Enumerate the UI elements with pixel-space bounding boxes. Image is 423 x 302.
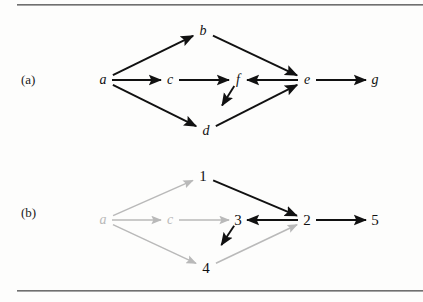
graph-node-e: e xyxy=(304,73,310,87)
graph-node-a: a xyxy=(100,73,107,87)
panel-label-a: (a) xyxy=(21,72,35,88)
top-horizontal-rule xyxy=(17,4,423,6)
graph-node-1: 1 xyxy=(199,169,207,184)
graph-edge xyxy=(213,36,297,76)
graph-node-g: g xyxy=(372,73,379,87)
graph-edge xyxy=(113,180,193,215)
graph-edge xyxy=(216,85,297,126)
graph-edge xyxy=(213,180,297,215)
graph-node-3: 3 xyxy=(234,213,242,228)
graph-node-4: 4 xyxy=(202,261,210,276)
graph-edge xyxy=(113,85,196,126)
graph-edge xyxy=(113,225,196,264)
graph-edge xyxy=(222,86,234,105)
graph-edge xyxy=(221,226,234,245)
graph-node-d: d xyxy=(203,124,210,138)
graph-node-f: f xyxy=(236,73,240,87)
panel-label-b: (b) xyxy=(21,205,36,221)
graph-node-2: 2 xyxy=(303,213,311,228)
graph-node-c: c xyxy=(167,73,173,87)
graph-node-b: b xyxy=(200,24,207,38)
graph-edge-layer xyxy=(0,0,423,302)
graph-node-a: a xyxy=(100,213,107,227)
bottom-horizontal-rule xyxy=(17,290,423,292)
graph-node-c: c xyxy=(167,213,173,227)
graph-node-5: 5 xyxy=(371,213,379,228)
figure-container: (a) (b) abcdefga1c4235 xyxy=(0,0,423,302)
graph-edge xyxy=(216,225,297,264)
graph-edge xyxy=(113,36,193,75)
